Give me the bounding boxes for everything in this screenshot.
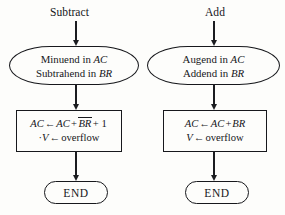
io-node-line-1: Minuend in AC — [41, 52, 108, 66]
connector-stem — [75, 151, 76, 176]
complement-br-term: BR — [78, 117, 92, 129]
io-node-line-2: Addend in BR — [183, 66, 244, 80]
plus-operator: + — [70, 118, 78, 129]
process-src-register: AC — [56, 118, 70, 129]
connector-arrow-start-to-io — [70, 21, 82, 46]
flowchart-column-add: Add Augend in AC Addend in BR AC←AC+BR V… — [145, 0, 285, 215]
io-node-add-operands: Augend in AC Addend in BR — [147, 46, 280, 85]
process-line-1: AC←AC+BR+ 1 — [30, 117, 108, 132]
connector-arrow-process-to-end — [208, 151, 220, 181]
connector-stem — [75, 84, 76, 105]
assign-arrow-icon: ← — [49, 132, 62, 143]
process-node-add: AC←AC+BR V←overflow — [163, 110, 267, 152]
process-line-1: AC←AC+BR — [185, 117, 246, 132]
terminal-label: END — [204, 186, 229, 200]
io-node-subtract-operands: Minuend in AC Subtrahend in BR — [9, 46, 139, 85]
start-label-add: Add — [145, 6, 285, 19]
process-plus-one: + 1 — [92, 118, 108, 129]
assign-arrow-icon: ← — [193, 132, 206, 143]
process-src-register: AC — [211, 118, 225, 129]
assign-arrow-icon: ← — [44, 118, 57, 129]
connector-stem — [213, 21, 214, 41]
br-term: BR — [232, 118, 245, 129]
process-dest-register: AC — [30, 118, 44, 129]
process-dest-register: AC — [185, 118, 199, 129]
io-node-line-2: Subtrahend in BR — [36, 66, 112, 80]
connector-arrow-io-to-process — [208, 84, 220, 110]
io-line2-text: Subtrahend in — [36, 67, 99, 79]
process-node-subtract: AC←AC+BR+ 1 ·V←overflow — [16, 110, 122, 152]
connector-arrow-process-to-end — [70, 151, 82, 181]
overflow-label: overflow — [61, 132, 99, 143]
connector-stem — [213, 151, 214, 176]
overflow-flag-register: V — [42, 132, 48, 143]
process-line-2: ·V←overflow — [39, 131, 100, 146]
io-line1-text: Minuend in — [41, 53, 94, 65]
connector-stem — [213, 84, 214, 105]
start-label-subtract: Subtract — [0, 6, 142, 19]
terminal-node-end-subtract: END — [44, 181, 108, 204]
connector-arrow-io-to-process — [70, 84, 82, 110]
process-line-2: V←overflow — [186, 131, 243, 146]
io-line1-register: AC — [94, 53, 108, 65]
connector-arrow-start-to-io — [208, 21, 220, 46]
assign-arrow-icon: ← — [198, 118, 211, 129]
flowchart-figure: Subtract Minuend in AC Subtrahend in BR … — [0, 0, 285, 215]
io-node-line-1: Augend in AC — [183, 52, 245, 66]
io-line2-text: Addend in — [183, 67, 231, 79]
io-line1-text: Augend in — [183, 53, 231, 65]
io-line2-register: BR — [231, 67, 244, 79]
terminal-label: END — [63, 186, 88, 200]
connector-stem — [75, 21, 76, 41]
overflow-label: overflow — [205, 132, 243, 143]
flowchart-column-subtract: Subtract Minuend in AC Subtrahend in BR … — [0, 0, 145, 215]
io-line2-register: BR — [99, 67, 112, 79]
io-line1-register: AC — [231, 53, 245, 65]
overflow-flag-register: V — [186, 132, 192, 143]
terminal-node-end-add: END — [185, 181, 249, 204]
